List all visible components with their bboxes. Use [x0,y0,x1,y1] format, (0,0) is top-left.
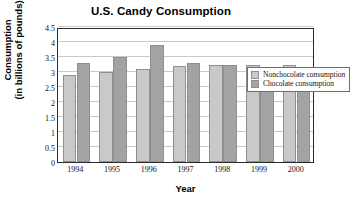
bar-group [131,29,168,162]
legend-label-chocolate: Chocolate consumption [263,80,334,89]
gridline [58,26,313,27]
bar-nonchocolate-1996 [136,69,150,162]
x-tick-label: 1998 [214,165,230,174]
y-tick-label: 0 [51,159,55,168]
x-tick-label: 1996 [141,165,157,174]
y-tick-label: 2.5 [45,84,55,93]
x-tick-label: 1997 [178,165,194,174]
y-axis-tick-labels: 00.511.522.533.544.5 [30,28,55,163]
plot-area: Nonchocolate consumption Chocolate consu… [57,28,314,163]
legend-swatch-nonchocolate-icon [251,71,259,79]
bar-group [58,29,95,162]
y-tick-label: 2 [51,99,55,108]
chart-title: U.S. Candy Consumption [0,5,322,17]
bar-group [168,29,205,162]
legend: Nonchocolate consumption Chocolate consu… [247,67,350,92]
bar-chocolate-1998 [223,65,237,163]
bar-nonchocolate-1998 [209,65,223,163]
bar-series-container [58,29,313,162]
bar-nonchocolate-1994 [63,75,77,162]
legend-label-nonchocolate: Nonchocolate consumption [263,71,345,80]
y-axis-label-line2: (in billions of pounds) [14,0,25,99]
x-axis-tick-labels: 1994199519961997199819992000 [57,165,314,179]
x-tick-label: 1995 [104,165,120,174]
x-axis-label: Year [57,183,314,194]
bar-chocolate-1995 [113,57,127,162]
legend-item-nonchocolate: Nonchocolate consumption [251,71,345,80]
bar-nonchocolate-1995 [99,72,113,162]
bar-group [95,29,132,162]
y-tick-label: 0.5 [45,144,55,153]
legend-item-chocolate: Chocolate consumption [251,80,345,89]
bar-group [278,29,315,162]
y-tick-label: 3.5 [45,54,55,63]
bar-group [242,29,279,162]
legend-swatch-chocolate-icon [251,80,259,88]
x-tick-label: 1994 [67,165,83,174]
y-tick-label: 1.5 [45,114,55,123]
x-tick-label: 1999 [251,165,267,174]
x-tick-label: 2000 [288,165,304,174]
bar-group [205,29,242,162]
y-tick-label: 4.5 [45,24,55,33]
y-tick-label: 4 [51,39,55,48]
bar-chocolate-1994 [77,63,91,162]
bar-nonchocolate-1997 [173,66,187,162]
y-tick-label: 1 [51,129,55,138]
bar-chocolate-1997 [187,63,201,162]
bar-chocolate-1996 [150,45,164,162]
y-axis-label: Consumption (in billions of pounds) [0,0,28,120]
y-tick-label: 3 [51,69,55,78]
